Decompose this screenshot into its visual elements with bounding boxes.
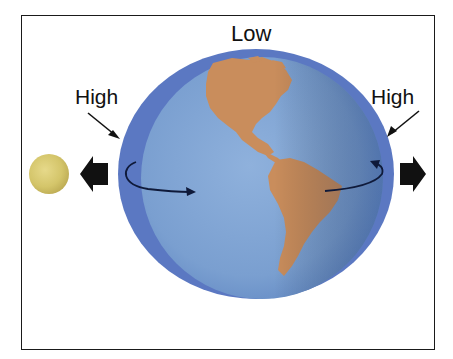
label-high-left: High <box>75 86 118 107</box>
pointer-arrow-right-high <box>387 111 419 137</box>
moon <box>29 154 69 194</box>
arrow-toward-moon-icon <box>80 156 108 192</box>
earth <box>141 56 383 299</box>
arrow-away-from-moon-icon <box>400 156 426 192</box>
tide-diagram <box>0 0 453 359</box>
label-low: Low <box>231 23 271 45</box>
pointer-arrow-left-high <box>88 113 120 139</box>
label-high-right: High <box>371 86 414 107</box>
